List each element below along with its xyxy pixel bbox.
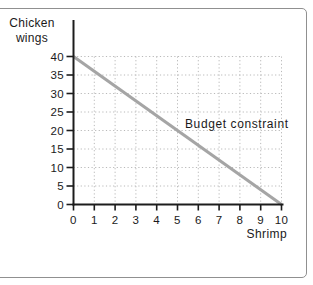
y-tick-label: 15 bbox=[50, 143, 64, 155]
figure-canvas: Chicken wings 05101520253035400123456789… bbox=[0, 0, 313, 285]
x-tick-label: 1 bbox=[91, 214, 98, 226]
y-tick-label: 25 bbox=[50, 106, 64, 118]
y-tick-label: 30 bbox=[50, 88, 64, 100]
x-tick-label: 7 bbox=[216, 214, 223, 226]
budget-constraint-label: Budget constraint bbox=[185, 117, 289, 131]
x-tick-label: 0 bbox=[70, 214, 77, 226]
x-axis-title: Shrimp bbox=[247, 227, 287, 241]
x-tick-label: 4 bbox=[153, 214, 160, 226]
x-tick-label: 10 bbox=[275, 214, 289, 226]
y-tick-label: 40 bbox=[50, 51, 64, 63]
y-tick-label: 0 bbox=[57, 199, 64, 211]
x-tick-label: 5 bbox=[174, 214, 181, 226]
x-tick-label: 2 bbox=[112, 214, 119, 226]
chart-plot: 0510152025303540012345678910 bbox=[0, 0, 313, 285]
y-tick-label: 5 bbox=[57, 180, 64, 192]
x-tick-label: 8 bbox=[237, 214, 244, 226]
x-tick-label: 6 bbox=[195, 214, 202, 226]
y-tick-label: 10 bbox=[50, 162, 64, 174]
x-tick-label: 9 bbox=[257, 214, 264, 226]
y-tick-label: 35 bbox=[50, 69, 64, 81]
x-tick-label: 3 bbox=[133, 214, 140, 226]
y-tick-label: 20 bbox=[50, 125, 64, 137]
